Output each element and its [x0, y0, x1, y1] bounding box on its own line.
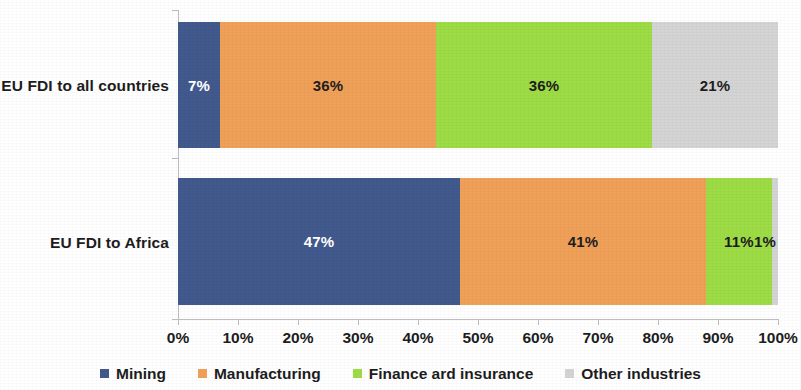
stacked-bar-chart: EU FDI to all countries EU FDI to Africa… [0, 0, 801, 390]
x-axis-tick-label: 80% [642, 330, 673, 346]
legend-swatch-icon [353, 369, 362, 378]
x-axis-tick-label: 70% [582, 330, 613, 346]
bar-segment-value-label: 1% [754, 234, 776, 249]
x-axis-tick [418, 319, 419, 325]
x-axis-tick [718, 319, 719, 325]
legend-item[interactable]: Finance ard insurance [353, 366, 534, 382]
bar-segment-value-label: 7% [188, 78, 210, 93]
x-axis-tick [778, 319, 779, 325]
x-axis-tick [358, 319, 359, 325]
x-axis-tick-label: 60% [522, 330, 553, 346]
x-axis-tick-label: 30% [342, 330, 373, 346]
x-axis-tick [178, 319, 179, 325]
legend-swatch-icon [198, 369, 207, 378]
x-axis-tick-label: 20% [282, 330, 313, 346]
bar-segment-value-label: 21% [700, 78, 731, 93]
x-axis-tick-label: 90% [702, 330, 733, 346]
legend-item[interactable]: Manufacturing [198, 366, 321, 382]
legend-label: Manufacturing [214, 366, 321, 382]
legend-swatch-icon [565, 369, 574, 378]
bar-segment-value-label: 47% [304, 234, 335, 249]
bar-segment-value-label: 41% [568, 234, 599, 249]
x-axis-tick-label: 40% [402, 330, 433, 346]
legend-label: Mining [116, 366, 166, 382]
x-axis-tick [298, 319, 299, 325]
x-axis-tick [538, 319, 539, 325]
x-axis-tick-label: 100% [758, 330, 798, 346]
x-axis-tick-label: 10% [222, 330, 253, 346]
legend-label: Finance ard insurance [369, 366, 534, 382]
bar-segment-value-label: 11% [724, 234, 754, 249]
x-axis-tick [478, 319, 479, 325]
legend-swatch-icon [100, 369, 109, 378]
x-axis: 0%10%20%30%40%50%60%70%80%90%100% [0, 0, 801, 390]
x-axis-tick [238, 319, 239, 325]
bar-segment-value-label: 36% [313, 78, 344, 93]
legend-item[interactable]: Other industries [565, 366, 701, 382]
legend-item[interactable]: Mining [100, 366, 166, 382]
chart-legend: MiningManufacturingFinance ard insurance… [0, 366, 801, 382]
x-axis-tick [658, 319, 659, 325]
legend-label: Other industries [581, 366, 701, 382]
bar-segment-value-label: 36% [529, 78, 560, 93]
x-axis-tick-label: 50% [462, 330, 493, 346]
x-axis-tick-label: 0% [167, 330, 189, 346]
x-axis-tick [598, 319, 599, 325]
